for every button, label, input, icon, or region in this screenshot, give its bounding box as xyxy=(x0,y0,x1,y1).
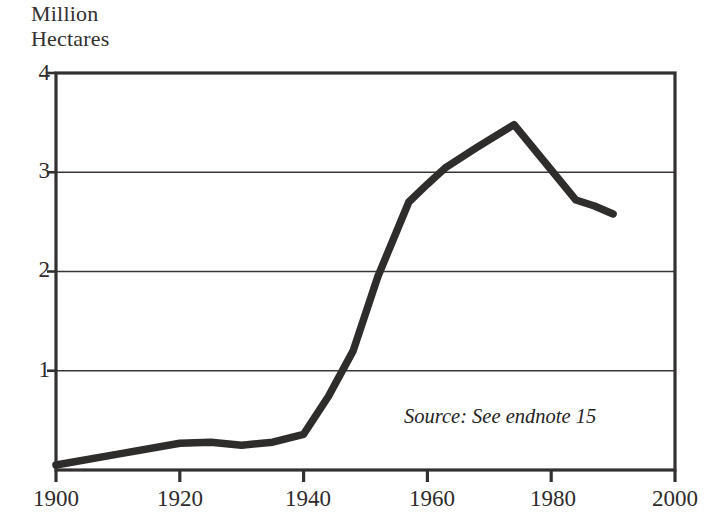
source-note: Source: See endnote 15 xyxy=(404,405,596,428)
plot-area xyxy=(0,0,718,531)
chart-figure: Million Hectares 4 3 2 1 1900 1920 1940 … xyxy=(0,0,718,531)
